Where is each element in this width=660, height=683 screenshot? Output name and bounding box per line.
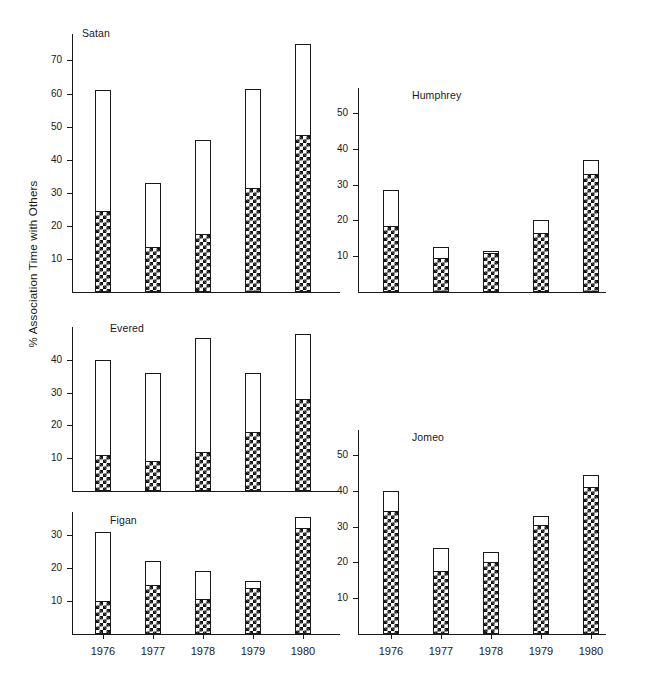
y-tick-label-humphrey-50: 50 <box>318 108 348 118</box>
y-tick-satan-70 <box>67 60 72 61</box>
x-axis-evered <box>72 491 340 492</box>
y-tick-label-evered-30: 30 <box>32 388 62 398</box>
x-axis-jomeo <box>358 634 606 635</box>
bar-hatched-humphrey-1977 <box>433 258 449 292</box>
bar-hatched-figan-1977 <box>145 585 161 634</box>
y-tick-jomeo-20 <box>353 562 358 563</box>
y-tick-label-jomeo-30: 30 <box>318 522 348 532</box>
y-axis-satan <box>72 34 73 293</box>
y-tick-evered-30 <box>67 393 72 394</box>
bar-hatched-evered-1977 <box>145 461 161 491</box>
y-tick-figan-20 <box>67 568 72 569</box>
y-tick-label-satan-70: 70 <box>32 55 62 65</box>
bar-hatched-jomeo-1978 <box>483 562 499 634</box>
y-tick-label-humphrey-10: 10 <box>318 251 348 261</box>
y-tick-label-jomeo-20: 20 <box>318 557 348 567</box>
x-tick-figan-1979 <box>253 635 254 639</box>
y-axis-humphrey <box>358 88 359 293</box>
x-tick-jomeo-1976 <box>391 635 392 639</box>
y-tick-evered-40 <box>67 360 72 361</box>
y-tick-label-figan-30: 30 <box>32 530 62 540</box>
bar-hatched-humphrey-1980 <box>583 174 599 292</box>
x-axis-figan <box>72 634 340 635</box>
y-tick-satan-10 <box>67 259 72 260</box>
y-tick-label-jomeo-50: 50 <box>318 450 348 460</box>
bar-hatched-satan-1976 <box>95 211 111 292</box>
x-axis-humphrey <box>358 292 606 293</box>
y-tick-satan-30 <box>67 193 72 194</box>
y-tick-label-satan-60: 60 <box>32 89 62 99</box>
y-tick-figan-10 <box>67 601 72 602</box>
y-tick-humphrey-30 <box>353 185 358 186</box>
bar-hatched-satan-1978 <box>195 234 211 292</box>
panel-title-figan: Figan <box>110 514 137 526</box>
x-tick-figan-1977 <box>153 635 154 639</box>
bar-hatched-evered-1979 <box>245 432 261 491</box>
x-tick-label-figan-1979: 1979 <box>229 646 277 657</box>
y-axis-figan <box>72 512 73 635</box>
y-tick-satan-60 <box>67 94 72 95</box>
y-tick-label-jomeo-10: 10 <box>318 593 348 603</box>
panel-title-humphrey: Humphrey <box>412 89 461 101</box>
x-tick-jomeo-1980 <box>591 635 592 639</box>
y-tick-evered-20 <box>67 425 72 426</box>
x-tick-label-jomeo-1977: 1977 <box>417 646 465 657</box>
panel-title-satan: Satan <box>82 27 110 39</box>
bar-hatched-humphrey-1976 <box>383 226 399 292</box>
x-tick-label-jomeo-1979: 1979 <box>517 646 565 657</box>
bar-hatched-jomeo-1980 <box>583 487 599 634</box>
y-tick-label-satan-30: 30 <box>32 188 62 198</box>
bar-hatched-satan-1977 <box>145 247 161 292</box>
bar-hatched-jomeo-1977 <box>433 571 449 634</box>
bar-hatched-jomeo-1979 <box>533 525 549 634</box>
y-tick-satan-50 <box>67 127 72 128</box>
y-axis-jomeo <box>358 430 359 635</box>
bar-hatched-satan-1979 <box>245 188 261 292</box>
y-tick-humphrey-20 <box>353 220 358 221</box>
x-tick-label-jomeo-1980: 1980 <box>567 646 615 657</box>
y-tick-humphrey-50 <box>353 113 358 114</box>
y-tick-label-satan-50: 50 <box>32 122 62 132</box>
x-tick-label-jomeo-1976: 1976 <box>367 646 415 657</box>
y-tick-jomeo-30 <box>353 527 358 528</box>
y-tick-satan-20 <box>67 226 72 227</box>
panel-title-jomeo: Jomeo <box>412 431 444 443</box>
y-tick-humphrey-10 <box>353 256 358 257</box>
bar-hatched-jomeo-1976 <box>383 511 399 634</box>
bar-hatched-figan-1978 <box>195 599 211 634</box>
x-tick-figan-1976 <box>103 635 104 639</box>
bar-hatched-figan-1980 <box>295 528 311 634</box>
x-tick-jomeo-1978 <box>491 635 492 639</box>
y-tick-label-satan-20: 20 <box>32 221 62 231</box>
y-tick-jomeo-10 <box>353 598 358 599</box>
bar-hatched-figan-1979 <box>245 588 261 634</box>
y-tick-label-figan-10: 10 <box>32 596 62 606</box>
x-tick-figan-1978 <box>203 635 204 639</box>
bar-hatched-figan-1976 <box>95 601 111 634</box>
y-tick-satan-40 <box>67 160 72 161</box>
x-tick-label-jomeo-1978: 1978 <box>467 646 515 657</box>
bar-hatched-humphrey-1978 <box>483 253 499 292</box>
x-tick-jomeo-1979 <box>541 635 542 639</box>
x-tick-label-figan-1980: 1980 <box>279 646 327 657</box>
y-tick-evered-10 <box>67 458 72 459</box>
y-tick-jomeo-40 <box>353 491 358 492</box>
y-tick-label-humphrey-40: 40 <box>318 144 348 154</box>
y-tick-label-satan-40: 40 <box>32 155 62 165</box>
x-tick-jomeo-1977 <box>441 635 442 639</box>
figure-canvas: % Association Time with Others 102030405… <box>0 0 660 683</box>
y-tick-figan-30 <box>67 535 72 536</box>
y-axis-evered <box>72 327 73 492</box>
y-tick-label-humphrey-20: 20 <box>318 215 348 225</box>
x-tick-label-figan-1978: 1978 <box>179 646 227 657</box>
y-tick-label-humphrey-30: 30 <box>318 180 348 190</box>
y-tick-jomeo-50 <box>353 455 358 456</box>
bar-hatched-evered-1978 <box>195 452 211 491</box>
y-tick-label-figan-20: 20 <box>32 563 62 573</box>
y-tick-humphrey-40 <box>353 149 358 150</box>
bar-hatched-humphrey-1979 <box>533 233 549 292</box>
x-tick-figan-1980 <box>303 635 304 639</box>
bar-hatched-evered-1980 <box>295 399 311 491</box>
x-tick-label-figan-1976: 1976 <box>79 646 127 657</box>
panel-title-evered: Evered <box>110 322 144 334</box>
